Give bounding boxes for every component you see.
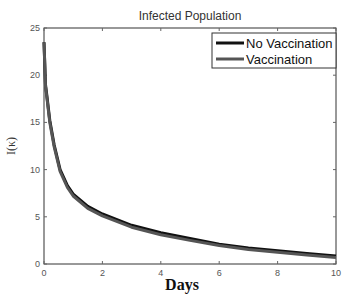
- x-tick-label: 2: [100, 268, 105, 278]
- x-tick-label: 10: [331, 268, 341, 278]
- y-tick-label: 20: [30, 70, 40, 80]
- infected-population-chart: Infected Population 0510152025 0246810 I…: [0, 0, 354, 302]
- y-tick-label: 10: [30, 165, 40, 175]
- chart-title: Infected Population: [139, 9, 242, 23]
- x-tick-label: 6: [217, 268, 222, 278]
- y-axis-label: I(κ): [4, 137, 18, 155]
- x-tick-label: 8: [275, 268, 280, 278]
- x-axis-label: Days: [165, 276, 199, 294]
- legend-label-vaccination: Vaccination: [246, 52, 312, 67]
- y-tick-label: 15: [30, 117, 40, 127]
- y-tick-label: 25: [30, 23, 40, 33]
- y-tick-label: 0: [35, 259, 40, 269]
- y-tick-label: 5: [35, 212, 40, 222]
- legend: No Vaccination Vaccination: [212, 33, 336, 68]
- legend-label-no-vaccination: No Vaccination: [246, 36, 332, 51]
- x-tick-label: 0: [41, 268, 46, 278]
- x-tick-label: 4: [158, 268, 163, 278]
